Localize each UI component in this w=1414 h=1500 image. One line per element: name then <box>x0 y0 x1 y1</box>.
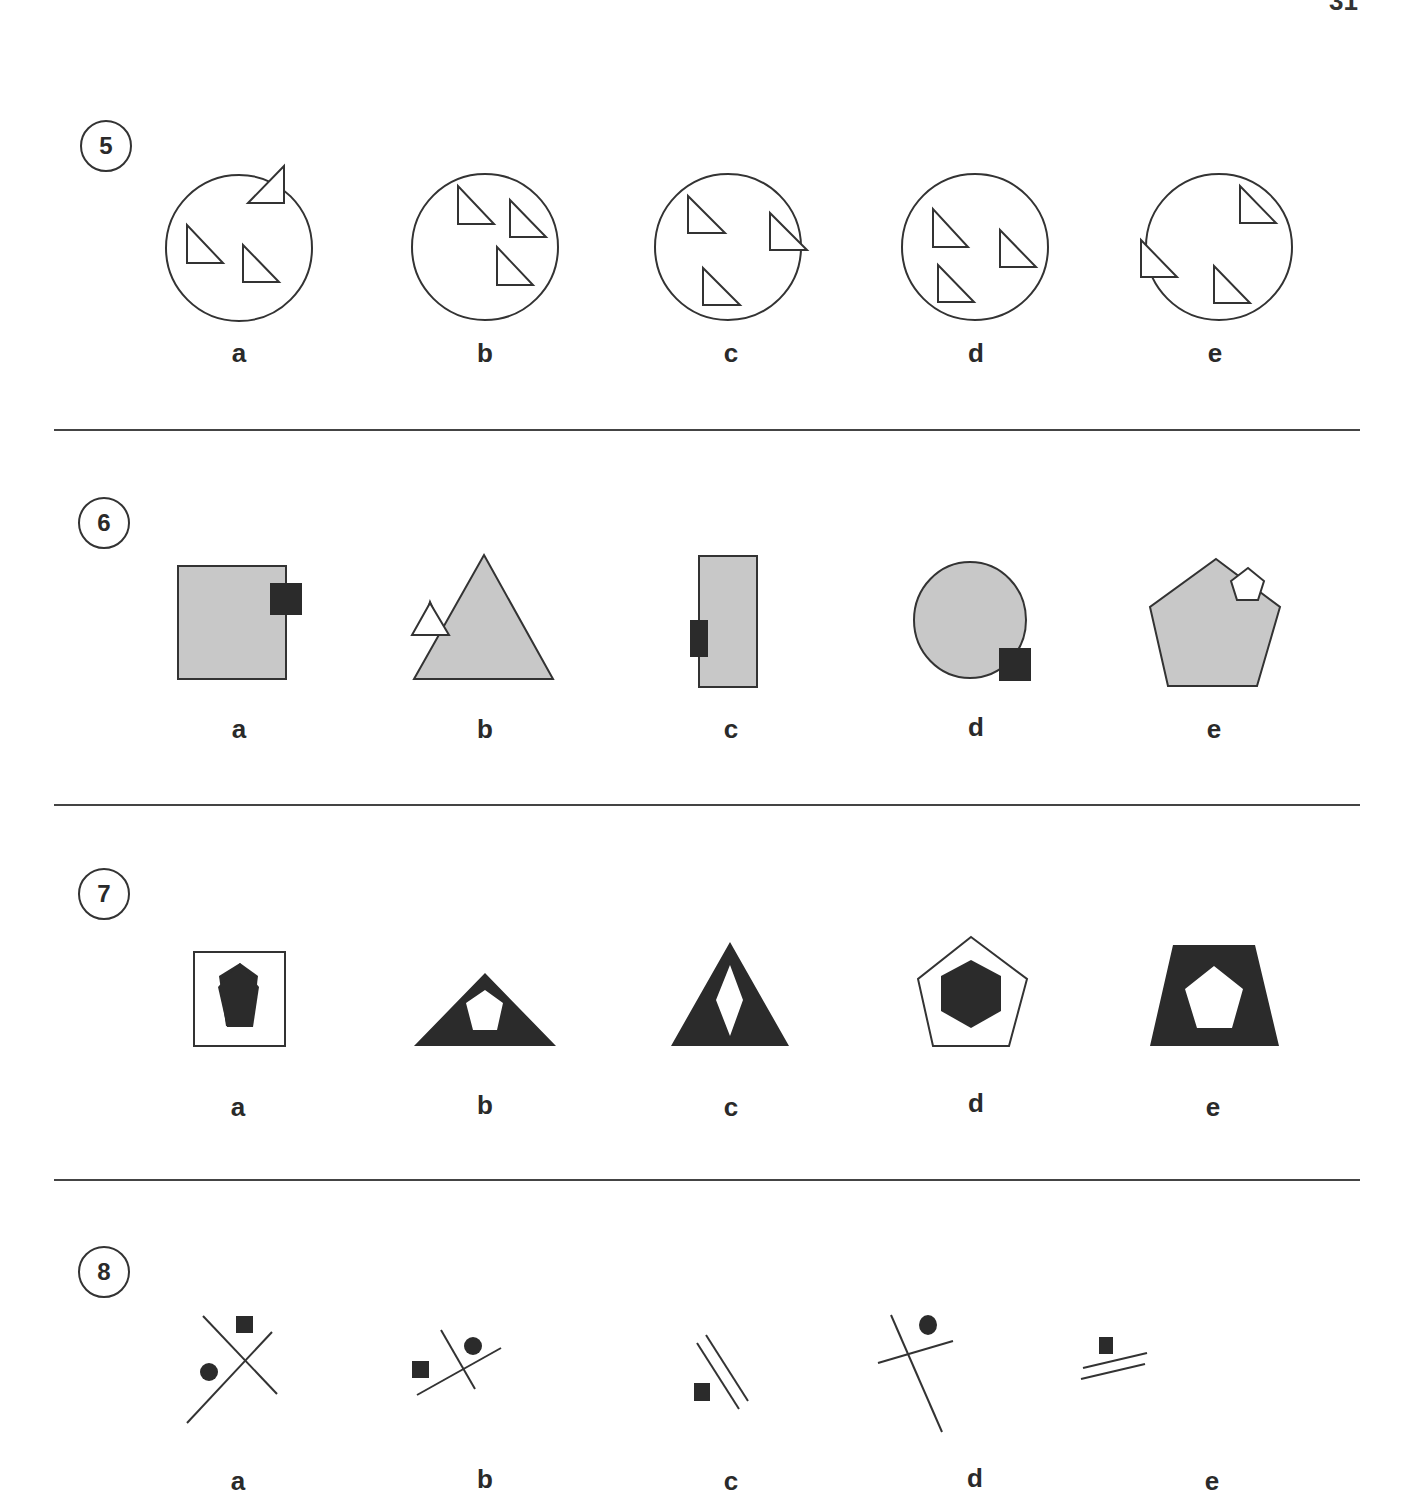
q8-option-a-figure <box>187 1316 277 1423</box>
q8-option-d-figure <box>878 1315 953 1432</box>
q8-option-b-label[interactable]: b <box>465 1464 505 1495</box>
q8-option-b-figure <box>412 1330 501 1395</box>
q8-option-e-label[interactable]: e <box>1192 1466 1232 1497</box>
question-8-figures <box>0 0 1414 1500</box>
q8-option-e-figure <box>1081 1337 1147 1379</box>
q8-option-c-figure <box>694 1335 748 1409</box>
q8-option-a-label[interactable]: a <box>218 1466 258 1497</box>
q8-option-c-label[interactable]: c <box>711 1466 751 1497</box>
q8-option-d-label[interactable]: d <box>955 1463 995 1494</box>
